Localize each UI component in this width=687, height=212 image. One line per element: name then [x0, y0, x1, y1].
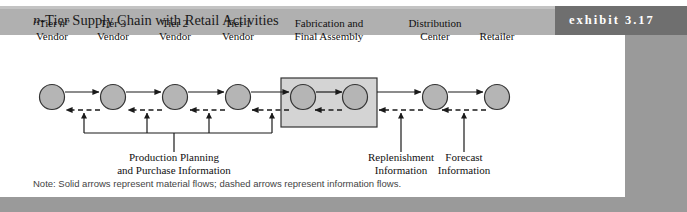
info-label-forecast: Forecast Information	[419, 151, 509, 176]
node-label-line1: Distribution	[390, 17, 480, 30]
node-tier-n-vendor	[40, 85, 65, 110]
node-retailer	[485, 85, 510, 110]
node-tier-3-vendor	[101, 85, 126, 110]
node-tier-1-vendor	[226, 85, 251, 110]
supply-chain-diagram	[0, 35, 625, 197]
info-label-production-planning: Production Planning and Purchase Informa…	[104, 151, 244, 176]
figure-note: Note: Solid arrows represent material fl…	[33, 178, 401, 189]
node-label-line1: Fabrication and	[269, 17, 389, 30]
exhibit-number-label: exhibit 3.17	[555, 13, 655, 28]
info-label-line2: Information	[419, 164, 509, 177]
exhibit-number-tab: exhibit 3.17	[555, 6, 687, 35]
node-tier-2-vendor	[163, 85, 188, 110]
exhibit-figure: exhibit 3.17 n-Tier Supply Chain with Re…	[0, 0, 687, 212]
info-label-line1: Production Planning	[104, 151, 244, 164]
node-final-assembly	[343, 85, 368, 110]
node-distribution-center	[423, 85, 448, 110]
node-fabrication	[291, 85, 316, 110]
node-label-line1: Tier 1	[200, 17, 276, 30]
info-label-line2: and Purchase Information	[104, 164, 244, 177]
info-label-line1: Forecast	[419, 151, 509, 164]
